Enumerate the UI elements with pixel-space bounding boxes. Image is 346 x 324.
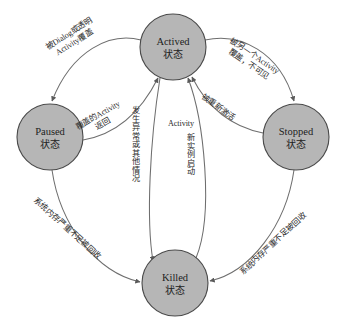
edge-label-killed-to-actived-line1: Activity [168, 119, 194, 128]
node-actived-label-en: Actived [156, 36, 190, 47]
edge-label-actived-to-killed-line1: 发生异常或其他情况 [130, 106, 139, 183]
node-killed-circle[interactable] [142, 250, 208, 316]
edge-label-killed-to-actived-word: Activity [168, 119, 194, 129]
node-actived-circle[interactable] [140, 14, 206, 80]
node-paused[interactable]: Paused 状态 [17, 104, 83, 170]
node-killed[interactable]: Killed 状态 [142, 250, 208, 316]
node-actived[interactable]: Actived 状态 [140, 14, 206, 80]
node-stopped-circle[interactable] [263, 104, 329, 170]
edge-stopped-to-actived [192, 77, 263, 133]
edge-label-killed-to-actived-column: 新实例启动 [185, 133, 193, 176]
node-stopped-label-en: Stopped [279, 126, 314, 137]
edge-label-actived-to-killed: 发生异常或其他情况 [130, 106, 138, 183]
node-stopped[interactable]: Stopped 状态 [263, 104, 329, 170]
node-killed-label-en: Killed [162, 272, 189, 283]
node-paused-label-cn: 状态 [40, 138, 60, 150]
node-actived-label-cn: 状态 [163, 48, 183, 60]
node-paused-label-en: Paused [35, 126, 65, 137]
activity-lifecycle-diagram: Actived 状态 Paused 状态 Stopped 状态 Killed 状… [0, 0, 346, 324]
edge-actived-to-killed [149, 78, 160, 261]
node-paused-circle[interactable] [17, 104, 83, 170]
node-stopped-label-cn: 状态 [286, 138, 306, 150]
edge-label-killed-to-actived-line2: 新实例启动 [185, 133, 194, 176]
node-killed-label-cn: 状态 [165, 284, 185, 296]
